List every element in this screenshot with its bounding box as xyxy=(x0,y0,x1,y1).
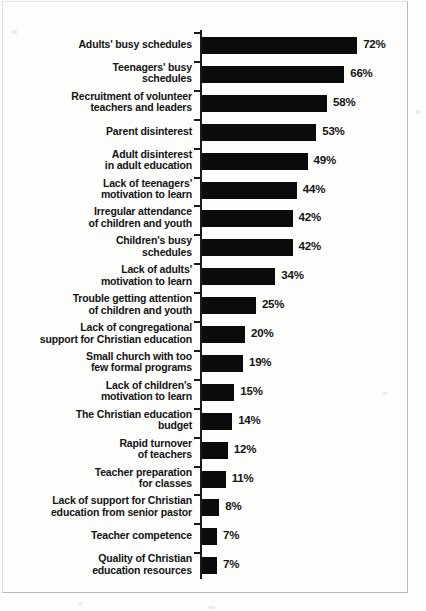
bar-category-label-line: motivation to learn xyxy=(24,189,192,201)
bar[interactable] xyxy=(202,239,293,256)
axis-tick xyxy=(194,177,201,179)
bar[interactable] xyxy=(202,413,232,430)
bar-category-label: Trouble getting attentionof children and… xyxy=(24,293,192,316)
bar-category-label-line: of teachers xyxy=(24,449,192,461)
bar-category-label: Lack of children'smotivation to learn xyxy=(24,380,192,403)
axis-tick xyxy=(194,321,201,323)
bar[interactable] xyxy=(202,442,228,459)
bar-value-label: 7% xyxy=(223,529,239,541)
bar-row[interactable]: Recruitment of volunteerteachers and lea… xyxy=(0,88,426,119)
bar-category-label-line: few formal programs xyxy=(24,362,192,374)
axis-tick xyxy=(194,523,201,525)
bar-category-label: Adults' busy schedules xyxy=(24,39,192,51)
bar-row[interactable]: Lack of congregationalsupport for Christ… xyxy=(0,319,426,350)
bar-category-label: Lack of congregationalsupport for Christ… xyxy=(24,322,192,345)
bar-category-label-line: schedules xyxy=(24,73,192,85)
bar-row[interactable]: Lack of support for Christianeducation f… xyxy=(0,492,426,523)
bar-value-label: 19% xyxy=(249,356,271,368)
bar[interactable] xyxy=(202,66,344,83)
axis-tick xyxy=(194,552,201,554)
bar-value-label: 53% xyxy=(322,125,344,137)
bar[interactable] xyxy=(202,124,316,141)
bar-row[interactable]: Children's busyschedules42% xyxy=(0,232,426,263)
bar-value-label: 8% xyxy=(225,500,241,512)
bar[interactable] xyxy=(202,355,243,372)
bar-value-label: 14% xyxy=(238,414,260,426)
bar[interactable] xyxy=(202,499,219,516)
bar-category-label: Teacher preparationfor classes xyxy=(24,467,192,490)
bar-category-label: Small church with toofew formal programs xyxy=(24,351,192,374)
bar-row[interactable]: Lack of children'smotivation to learn15% xyxy=(0,377,426,408)
bar-value-label: 72% xyxy=(363,38,385,50)
bar[interactable] xyxy=(202,153,308,170)
axis-tick xyxy=(194,379,201,381)
bar-category-label-line: Trouble getting attention xyxy=(24,293,192,305)
bar-row[interactable]: Teenagers' busyschedules66% xyxy=(0,59,426,90)
chart-page: Adults' busy schedules72%Teenagers' busy… xyxy=(0,0,426,611)
axis-tick xyxy=(194,466,201,468)
bar-category-label: Teenagers' busyschedules xyxy=(24,62,192,85)
bar-value-label: 12% xyxy=(234,443,256,455)
bar-value-label: 15% xyxy=(240,385,262,397)
bar-row[interactable]: Small church with toofew formal programs… xyxy=(0,348,426,379)
bar-row[interactable]: Adult disinterestin adult education49% xyxy=(0,146,426,177)
axis-tick xyxy=(194,32,201,34)
bar-row[interactable]: Trouble getting attentionof children and… xyxy=(0,290,426,321)
bar[interactable] xyxy=(202,268,275,285)
bar-category-label-line: schedules xyxy=(24,247,192,259)
bar-category-label-line: Parent disinterest xyxy=(24,126,192,138)
bar-value-label: 11% xyxy=(232,472,254,484)
bar-row[interactable]: Lack of adults'motivation to learn34% xyxy=(0,261,426,292)
bar-category-label-line: support for Christian education xyxy=(24,334,192,346)
bar-category-label: Lack of adults'motivation to learn xyxy=(24,264,192,287)
axis-tick xyxy=(194,148,201,150)
bar[interactable] xyxy=(202,471,226,488)
bar-row[interactable]: Quality of Christianeducation resources7… xyxy=(0,550,426,581)
bar-category-label-line: motivation to learn xyxy=(24,391,192,403)
bar[interactable] xyxy=(202,182,297,199)
bar-category-label-line: Teacher competence xyxy=(24,530,192,542)
bar-row[interactable]: Lack of teenagers'motivation to learn44% xyxy=(0,175,426,206)
bar-category-label: Teacher competence xyxy=(24,530,192,542)
axis-tick xyxy=(194,437,201,439)
bar-category-label-line: budget xyxy=(24,420,192,432)
bar-row[interactable]: Parent disinterest53% xyxy=(0,117,426,148)
bar-value-label: 20% xyxy=(251,327,273,339)
bar-value-label: 58% xyxy=(333,96,355,108)
bar-category-label-line: Lack of congregational xyxy=(24,322,192,334)
bar-category-label: Children's busyschedules xyxy=(24,235,192,258)
bar-category-label-line: motivation to learn xyxy=(24,276,192,288)
bar[interactable] xyxy=(202,528,217,545)
axis-tick xyxy=(194,119,201,121)
bar-category-label-line: in adult education xyxy=(24,160,192,172)
axis-tick xyxy=(194,205,201,207)
bar-value-label: 66% xyxy=(350,67,372,79)
bar-category-label: The Christian educationbudget xyxy=(24,409,192,432)
bar[interactable] xyxy=(202,326,245,343)
bar-row[interactable]: The Christian educationbudget14% xyxy=(0,406,426,437)
bar-row[interactable]: Rapid turnoverof teachers12% xyxy=(0,435,426,466)
axis-tick xyxy=(194,234,201,236)
bar-row[interactable]: Adults' busy schedules72% xyxy=(0,30,426,61)
bar[interactable] xyxy=(202,557,217,574)
axis-tick xyxy=(194,263,201,265)
bar-value-label: 7% xyxy=(223,558,239,570)
axis-tick xyxy=(194,292,201,294)
bar-category-label: Irregular attendanceof children and yout… xyxy=(24,206,192,229)
axis-tick xyxy=(194,90,201,92)
bar-category-label-line: of children and youth xyxy=(24,218,192,230)
bar[interactable] xyxy=(202,297,256,314)
bar[interactable] xyxy=(202,37,357,54)
bar-row[interactable]: Irregular attendanceof children and yout… xyxy=(0,203,426,234)
bar-row[interactable]: Teacher competence7% xyxy=(0,521,426,552)
bar-category-label-line: of children and youth xyxy=(24,305,192,317)
bar-row[interactable]: Teacher preparationfor classes11% xyxy=(0,464,426,495)
axis-tick xyxy=(194,408,201,410)
bar[interactable] xyxy=(202,384,234,401)
axis-tick xyxy=(194,61,201,63)
bar-category-label-line: Adults' busy schedules xyxy=(24,39,192,51)
bar-value-label: 25% xyxy=(262,298,284,310)
bar-category-label: Parent disinterest xyxy=(24,126,192,138)
bar[interactable] xyxy=(202,95,327,112)
bar[interactable] xyxy=(202,210,293,227)
